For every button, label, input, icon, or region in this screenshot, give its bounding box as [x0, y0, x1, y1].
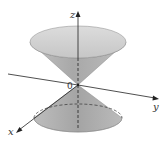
y-axis-arrowhead-icon [153, 96, 160, 101]
y-axis-label: y [152, 101, 159, 112]
origin-point [77, 84, 79, 86]
diagram-svg: z 0 y x [0, 0, 168, 154]
x-axis-label: x [8, 126, 14, 137]
origin-label: 0 [67, 81, 73, 91]
z-axis-arrowhead-icon [76, 11, 81, 17]
double-cone-diagram: z 0 y x [0, 0, 168, 154]
z-axis-label: z [69, 9, 76, 20]
